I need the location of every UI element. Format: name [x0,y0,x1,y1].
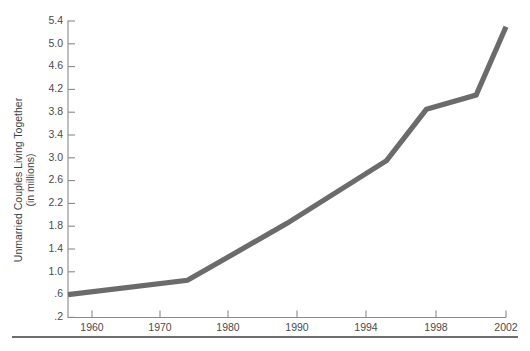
y-axis-ticks: 5.4 5.0 4.6 4.2 3.8 3.4 3.0 2.6 2.2 1.8 … [48,14,75,322]
y-tick-label: 1.8 [48,219,63,231]
y-tick-label: .6 [54,287,63,299]
x-axis-ticks: 1960 1970 1980 1990 1994 1998 2002 [80,311,518,334]
y-tick-label: 2.2 [48,196,63,208]
y-tick-label: 4.6 [48,59,63,71]
y-tick-label: .2 [54,310,63,322]
x-tick-label: 1960 [80,321,104,333]
x-tick-label: 1990 [285,321,309,333]
y-tick-label: 5.4 [48,14,63,26]
y-tick-label: 1.0 [48,265,63,277]
x-tick-label: 1970 [148,321,172,333]
y-tick-label: 5.0 [48,37,63,49]
x-tick-label: 2002 [494,321,518,333]
y-tick-label: 1.4 [48,242,63,254]
data-line-unmarried-couples [68,27,506,295]
y-tick-label: 3.8 [48,105,63,117]
line-chart-svg: Unmarried Couples Living Together (in mi… [0,0,530,351]
y-axis-title: Unmarried Couples Living Together (in mi… [12,97,36,262]
y-tick-label: 2.6 [48,173,63,185]
axis-spines [68,21,506,318]
y-tick-label: 4.2 [48,82,63,94]
y-axis-title-line2: (in millions) [24,153,36,206]
y-tick-label: 3.4 [48,128,63,140]
x-tick-label: 1998 [424,321,448,333]
x-tick-label: 1994 [354,321,378,333]
y-axis-title-line1: Unmarried Couples Living Together [12,97,24,262]
y-tick-label: 3.0 [48,151,63,163]
chart-figure: Unmarried Couples Living Together (in mi… [0,0,530,351]
x-tick-label: 1980 [216,321,240,333]
